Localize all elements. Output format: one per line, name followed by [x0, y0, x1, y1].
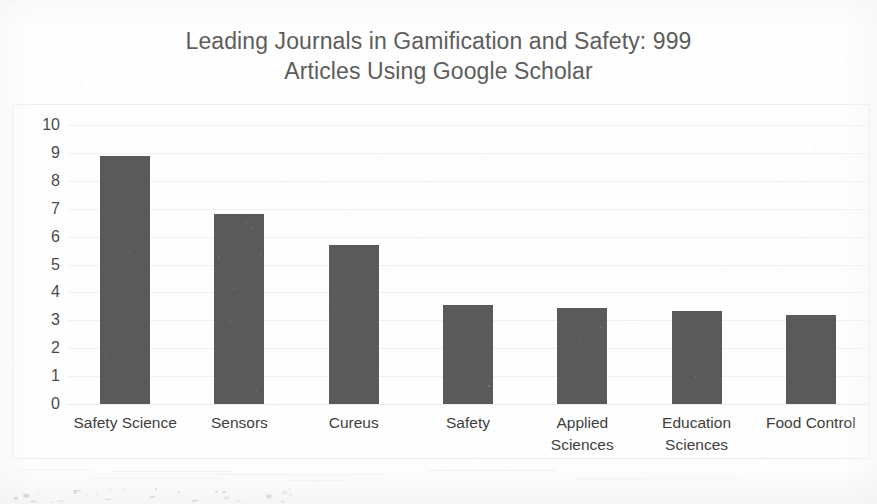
- bar-slot: [68, 125, 182, 404]
- bar-slot: [754, 125, 868, 404]
- x-axis-label: Safety Science: [68, 412, 182, 434]
- bar[interactable]: [100, 156, 150, 404]
- bar[interactable]: [557, 308, 607, 404]
- y-tick-label-2: 2: [26, 340, 60, 356]
- x-axis-label-line: Sensors: [211, 414, 268, 431]
- x-axis-label-line: Sciences: [525, 434, 639, 456]
- x-axis-label: Cureus: [297, 412, 411, 434]
- x-axis-label-line: Sciences: [639, 434, 753, 456]
- y-tick-label-5: 5: [26, 257, 60, 273]
- bar[interactable]: [329, 245, 379, 404]
- chart-title-line-1: Leading Journals in Gamification and Saf…: [0, 26, 877, 56]
- chart-page: Leading Journals in Gamification and Saf…: [0, 0, 877, 504]
- y-tick-label-0: 0: [26, 396, 60, 412]
- y-tick-label-9: 9: [26, 145, 60, 161]
- y-tick-label-6: 6: [26, 229, 60, 245]
- x-axis-label-line: Cureus: [329, 414, 379, 431]
- x-axis-label-line: Applied: [556, 414, 608, 431]
- y-tick-label-8: 8: [26, 173, 60, 189]
- bar[interactable]: [786, 315, 836, 404]
- y-tick-label-1: 1: [26, 368, 60, 384]
- chart-title-line-2: Articles Using Google Scholar: [0, 56, 877, 86]
- bar-slot: [297, 125, 411, 404]
- x-axis-label-line: Food Control: [766, 414, 856, 431]
- x-axis-label: Food Control: [754, 412, 868, 434]
- y-axis: 109876543210: [26, 125, 60, 404]
- y-tick-label-7: 7: [26, 201, 60, 217]
- gridline-0: [68, 404, 868, 405]
- x-axis-label-line: Education: [662, 414, 731, 431]
- x-axis-label: Sensors: [182, 412, 296, 434]
- y-tick-label-3: 3: [26, 312, 60, 328]
- bar-slot: [411, 125, 525, 404]
- x-axis-label-line: Safety: [446, 414, 490, 431]
- x-axis: Safety ScienceSensorsCureusSafetyApplied…: [68, 412, 868, 492]
- x-axis-label: Safety: [411, 412, 525, 434]
- bar[interactable]: [672, 311, 722, 404]
- x-axis-label-line: Safety Science: [73, 414, 176, 431]
- bar-slot: [639, 125, 753, 404]
- bar-series: [68, 125, 868, 404]
- y-tick-label-10: 10: [26, 117, 60, 133]
- bar[interactable]: [214, 214, 264, 404]
- bar[interactable]: [443, 305, 493, 404]
- x-axis-label: EducationSciences: [639, 412, 753, 456]
- bar-slot: [182, 125, 296, 404]
- y-tick-label-4: 4: [26, 284, 60, 300]
- chart-title: Leading Journals in Gamification and Saf…: [0, 26, 877, 86]
- x-axis-label: AppliedSciences: [525, 412, 639, 456]
- bar-slot: [525, 125, 639, 404]
